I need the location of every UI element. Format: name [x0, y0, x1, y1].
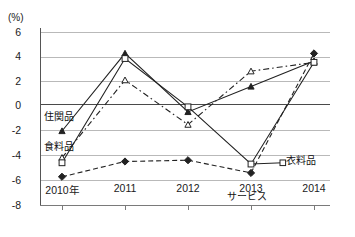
series-layer: [40, 28, 330, 206]
series-line-0: [62, 53, 314, 131]
x-tick-mark-2011: [125, 206, 126, 210]
x-tick-label-2011: 2011: [95, 182, 155, 194]
annotation-shokuryohin: 食料品: [44, 138, 74, 153]
data-point-3-3: [247, 169, 254, 176]
x-tick-label-2012: 2012: [158, 182, 218, 194]
data-point-3-0: [58, 173, 65, 180]
data-point-3-4: [310, 50, 317, 57]
x-tick-label-2013: 2013: [221, 182, 281, 194]
chart-root: (%) 6 4 2 0 -2 -4 -6 -8 住関品 食料品 衣料品 サービス: [0, 0, 355, 237]
x-tick-mark-2010: [62, 206, 63, 210]
x-tick-mark-2014: [314, 206, 315, 210]
y-tick-label-neg2: -2: [0, 125, 21, 135]
x-tick-mark-2013: [251, 206, 252, 210]
y-axis-unit-label: (%): [8, 12, 24, 23]
x-tick-label-2014: 2014: [284, 182, 344, 194]
y-tick-label-6: 6: [0, 27, 21, 37]
annotation-iryohin: 衣料品: [286, 152, 316, 167]
y-tick-label-neg8: -8: [0, 200, 21, 210]
data-point-2-3: [248, 161, 254, 167]
y-tick-label-4: 4: [0, 51, 21, 61]
y-tick-label-0: 0: [0, 100, 21, 110]
y-tick-label-2: 2: [0, 76, 21, 86]
data-point-2-4: [311, 59, 317, 65]
data-point-2-0: [59, 160, 65, 166]
data-point-3-2: [184, 157, 191, 164]
annotation-jukanhin: 住関品: [44, 108, 74, 123]
data-point-3-1: [121, 158, 128, 165]
data-point-1-1: [122, 77, 128, 83]
data-point-2-2: [185, 104, 191, 110]
legend-marker-iryohin: [280, 160, 286, 166]
data-point-2-1: [122, 56, 128, 62]
y-tick-label-neg4: -4: [0, 150, 21, 160]
plot-area: 住関品 食料品 衣料品 サービス: [40, 28, 330, 206]
y-tick-label-neg6: -6: [0, 175, 21, 185]
x-tick-label-2010: 2010年: [32, 182, 92, 197]
data-point-0-3: [248, 83, 254, 89]
x-tick-mark-2012: [188, 206, 189, 210]
